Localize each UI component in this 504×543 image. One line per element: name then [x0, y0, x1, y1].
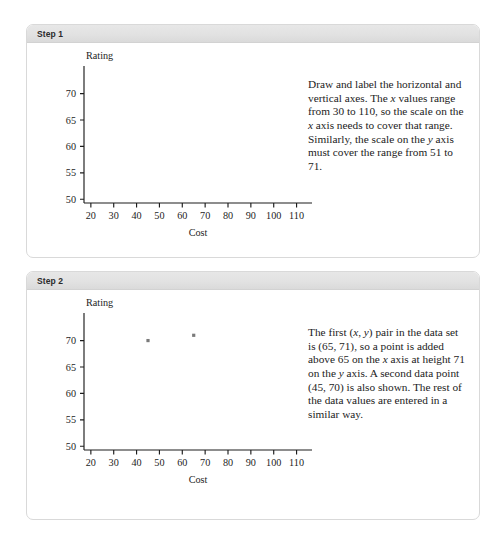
x-axis-tick-label: 40 — [131, 457, 141, 468]
y-axis-tick-label: 60 — [66, 388, 76, 399]
data-point — [192, 334, 195, 337]
step-1-description: Draw and label the horizontal and vertic… — [308, 78, 466, 173]
x-axis-tick-label: 110 — [289, 457, 304, 468]
y-axis-tick-label: 65 — [66, 115, 76, 126]
step-1-body: Rating50556065702030405060708090100110Co… — [27, 43, 479, 258]
step-2-title: Step 2 — [37, 276, 63, 286]
worked-example-page: Step 1 Rating505560657020304050607080901… — [0, 0, 504, 543]
x-axis-tick-label: 50 — [154, 457, 164, 468]
x-axis-tick-label: 60 — [177, 210, 187, 221]
y-axis-tick-label: 65 — [66, 362, 76, 373]
x-axis-tick-label: 110 — [289, 210, 304, 221]
step-1-header: Step 1 — [27, 25, 479, 43]
x-axis-tick-label: 100 — [266, 457, 281, 468]
x-axis-tick-label: 70 — [200, 210, 210, 221]
x-axis-tick-label: 90 — [246, 210, 256, 221]
step-2-chart: Rating50556065702030405060708090100110Co… — [27, 290, 313, 520]
x-axis-tick-label: 70 — [200, 457, 210, 468]
y-axis-tick-label: 50 — [66, 441, 76, 452]
x-axis-tick-label: 60 — [177, 457, 187, 468]
step-1-title: Step 1 — [37, 29, 63, 39]
step-2-header: Step 2 — [27, 272, 479, 290]
y-axis-tick-label: 55 — [66, 167, 76, 178]
x-axis-tick-label: 100 — [266, 210, 281, 221]
y-axis-tick-label: 60 — [66, 141, 76, 152]
x-axis-tick-label: 80 — [223, 210, 233, 221]
x-axis-tick-label: 20 — [86, 210, 96, 221]
x-axis-tick-label: 80 — [223, 457, 233, 468]
y-axis-tick-label: 50 — [66, 194, 76, 205]
scatter-plot-1: Rating50556065702030405060708090100110Co… — [27, 43, 313, 258]
x-axis-label: Cost — [189, 474, 208, 485]
x-axis-tick-label: 90 — [246, 457, 256, 468]
x-axis-tick-label: 40 — [131, 210, 141, 221]
y-axis-tick-label: 70 — [66, 335, 76, 346]
y-axis-label: Rating — [86, 50, 113, 61]
data-point — [146, 339, 149, 342]
step-panel-2: Step 2 Rating505560657020304050607080901… — [26, 271, 480, 520]
x-axis-tick-label: 30 — [109, 210, 119, 221]
scatter-plot-2: Rating50556065702030405060708090100110Co… — [27, 290, 313, 520]
y-axis-label: Rating — [86, 297, 113, 308]
step-1-chart: Rating50556065702030405060708090100110Co… — [27, 43, 313, 258]
x-axis-tick-label: 50 — [154, 210, 164, 221]
x-axis-tick-label: 20 — [86, 457, 96, 468]
step-2-description: The first (x, y) pair in the data set is… — [308, 326, 466, 421]
step-2-body: Rating50556065702030405060708090100110Co… — [27, 290, 479, 520]
step-panel-1: Step 1 Rating505560657020304050607080901… — [26, 24, 480, 258]
y-axis-tick-label: 70 — [66, 88, 76, 99]
y-axis-tick-label: 55 — [66, 414, 76, 425]
x-axis-label: Cost — [189, 227, 208, 238]
x-axis-tick-label: 30 — [109, 457, 119, 468]
